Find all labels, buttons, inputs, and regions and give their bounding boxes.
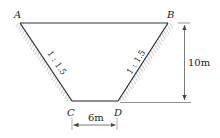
point-b-label: B: [166, 9, 174, 20]
bottom-width-label: 6m: [88, 112, 104, 123]
left-slope-ac: [20, 23, 72, 101]
point-d-label: D: [113, 107, 122, 118]
height-label: 10m: [188, 57, 211, 68]
right-slope-db: [118, 23, 168, 101]
point-c-label: C: [67, 107, 75, 118]
channel-cross-section-diagram: 10m 6m A B C D 1 : 1.5 1 : 1.5: [0, 0, 220, 138]
point-a-label: A: [13, 9, 21, 20]
right-bank-hatching: [118, 23, 175, 101]
